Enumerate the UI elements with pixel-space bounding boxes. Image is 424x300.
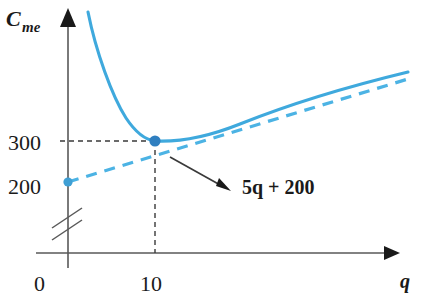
annotation-label-5q-plus-200: 5q + 200 (242, 176, 315, 199)
x-axis-label: q (400, 270, 410, 293)
chart-svg: C me q 300 200 0 10 5q + 200 (0, 0, 424, 300)
y-tick-label-300: 300 (8, 130, 41, 155)
y-axis-break-icon (52, 208, 82, 240)
cme-cost-curve-figure: C me q 300 200 0 10 5q + 200 (0, 0, 424, 300)
y-axis-label-subscript: me (22, 19, 41, 35)
y-axis-arrowhead (60, 8, 76, 27)
asymptote-line-5q-plus-200 (68, 79, 408, 182)
marker-y-intercept-200 (63, 177, 72, 186)
guide-lines-group (60, 141, 155, 253)
annotation-arrow (170, 157, 231, 191)
cme-curve-path (88, 12, 408, 141)
marker-tangency-point (149, 135, 160, 146)
y-axis-label: C me (6, 6, 41, 35)
y-tick-label-200: 200 (8, 174, 41, 199)
y-axis-label-main: C (6, 6, 21, 31)
x-axis-arrowhead (384, 246, 400, 260)
x-tick-label-10: 10 (140, 271, 162, 296)
x-tick-label-0: 0 (34, 271, 45, 296)
